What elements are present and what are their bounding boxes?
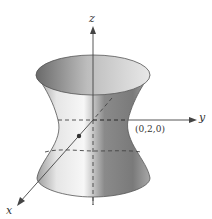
z-axis-label: z — [89, 12, 95, 25]
point-marker — [77, 134, 81, 138]
hyperboloid-diagram — [0, 0, 212, 219]
point-label: (0,2,0) — [135, 124, 165, 134]
y-axis-arrow-icon — [189, 117, 197, 123]
x-axis-label: x — [6, 204, 12, 217]
z-axis-arrow-icon — [90, 26, 96, 34]
y-axis-label: y — [199, 111, 205, 124]
hyperboloid-figure: z y x (0,2,0) — [0, 0, 212, 219]
